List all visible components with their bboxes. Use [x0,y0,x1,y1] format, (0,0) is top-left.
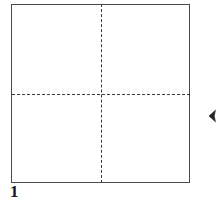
step-number-label: 1 [10,183,19,201]
left-pointing-arrowhead-icon [206,108,217,124]
horizontal-center-crease-line [12,94,190,95]
origami-step-diagram: 1 [0,0,217,201]
